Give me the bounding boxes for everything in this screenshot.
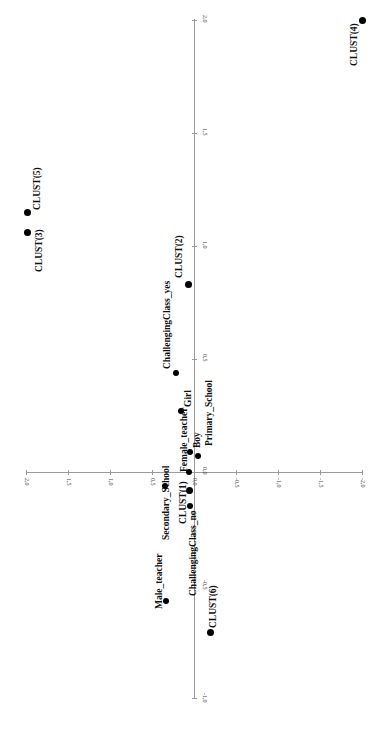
tick-label: -1,0	[202, 693, 208, 703]
data-point-marker	[185, 281, 192, 288]
tick-label: -1,0	[276, 478, 282, 488]
data-point-marker	[163, 598, 169, 604]
data-point-label: CLUST(5)	[32, 167, 42, 210]
tick-mark	[68, 470, 69, 475]
tick-label: 0,5	[150, 478, 156, 486]
data-point-label: Female_teacher	[179, 408, 189, 472]
tick-mark	[152, 470, 153, 475]
data-point-marker	[24, 229, 31, 236]
data-point-label: CLUST(1)	[178, 481, 188, 524]
tick-label: -0,5	[234, 478, 240, 488]
data-point-label: CLUST(2)	[174, 236, 184, 279]
tick-mark	[192, 698, 197, 699]
tick-mark	[194, 470, 195, 475]
tick-label: 1,5	[66, 478, 72, 486]
data-point-label: Secondary_School	[161, 465, 171, 539]
tick-label: 0,5	[202, 354, 208, 362]
data-point-label: Boy	[192, 432, 202, 448]
data-point-label: ChallengingClass_no	[188, 510, 198, 596]
tick-label: 1,0	[202, 241, 208, 249]
tick-mark	[192, 359, 197, 360]
data-point-marker	[173, 370, 179, 376]
tick-mark	[320, 470, 321, 475]
data-point-marker	[24, 209, 31, 216]
tick-label: 0,0	[202, 467, 208, 475]
data-point-label: Primary_School	[204, 380, 214, 446]
data-point-marker	[195, 453, 201, 459]
tick-mark	[192, 246, 197, 247]
data-point-label: CLUST(4)	[349, 23, 359, 66]
tick-mark	[192, 133, 197, 134]
data-point-marker	[207, 629, 214, 636]
scatter-plot: 2,01,51,00,50,0-0,5-1,0 2,01,51,00,50,0-…	[0, 0, 379, 735]
data-point-marker	[359, 17, 366, 24]
tick-label: 2,0	[202, 15, 208, 23]
tick-mark	[110, 470, 111, 475]
tick-label: 0,0	[192, 478, 198, 486]
tick-mark	[26, 470, 27, 475]
tick-label: 1,0	[108, 478, 114, 486]
tick-mark	[362, 470, 363, 475]
tick-mark	[192, 20, 197, 21]
data-point-label: CLUST(3)	[34, 230, 44, 273]
data-point-label: Girl	[183, 390, 193, 407]
tick-label: 2,0	[24, 478, 30, 486]
data-point-label: Male_teacher	[154, 553, 164, 608]
tick-mark	[236, 470, 237, 475]
tick-label: -1,5	[318, 478, 324, 488]
data-point-label: ChallengingClass_yes	[162, 280, 172, 368]
data-point-label: CLUST(6)	[208, 586, 218, 629]
tick-mark	[278, 470, 279, 475]
data-point-marker	[187, 503, 193, 509]
tick-label: -2,0	[360, 478, 366, 488]
tick-label: 1,5	[202, 128, 208, 136]
